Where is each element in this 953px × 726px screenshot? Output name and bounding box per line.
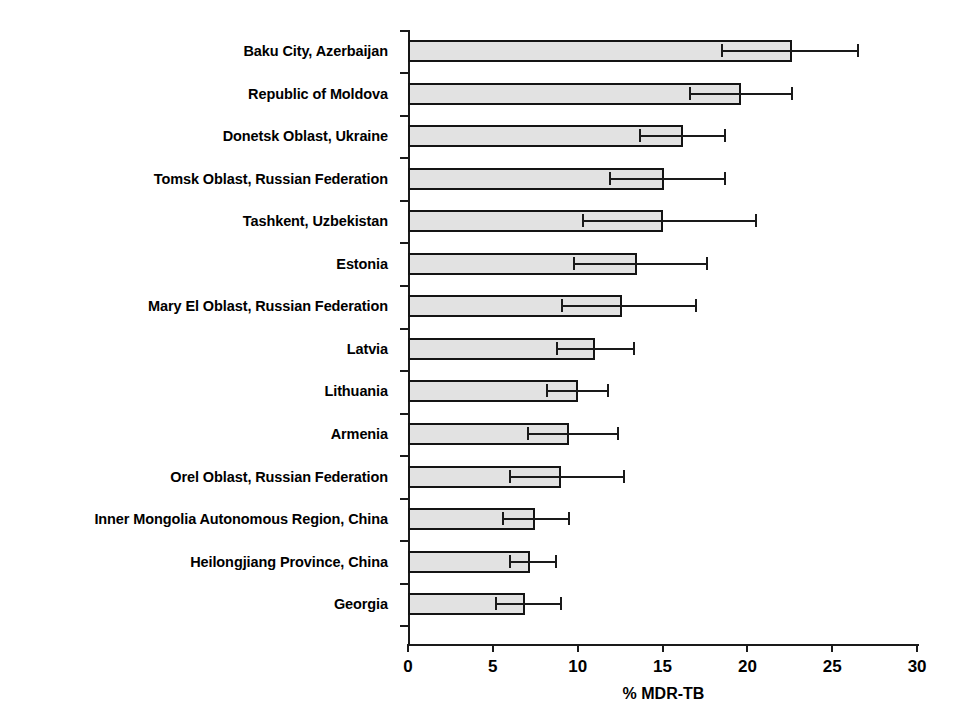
x-axis-tick: [916, 644, 918, 652]
error-bar-line: [640, 135, 725, 137]
x-axis-tick-label: 0: [403, 657, 412, 677]
error-bar-cap-high: [695, 299, 697, 312]
category-label: Heilongjiang Province, China: [0, 554, 388, 570]
error-bar-line: [610, 178, 725, 180]
x-axis-tick: [407, 644, 409, 652]
error-bar-cap-high: [755, 214, 757, 227]
y-axis-tick: [400, 328, 408, 330]
y-axis-tick: [400, 625, 408, 627]
error-bar-cap-low: [561, 299, 563, 312]
error-bar-cap-low: [527, 427, 529, 440]
y-axis-tick: [400, 498, 408, 500]
error-bar-cap-low: [689, 87, 691, 100]
y-axis-tick: [400, 370, 408, 372]
category-label: Tashkent, Uzbekistan: [0, 213, 388, 229]
error-bar-cap-low: [609, 172, 611, 185]
category-label: Inner Mongolia Autonomous Region, China: [0, 511, 388, 527]
error-bar-cap-low: [546, 384, 548, 397]
category-label: Lithuania: [0, 383, 388, 399]
y-axis-tick: [400, 540, 408, 542]
error-bar-cap-low: [721, 44, 723, 57]
error-bar-line: [503, 518, 569, 520]
error-bar-cap-high: [560, 597, 562, 610]
category-label: Armenia: [0, 426, 388, 442]
y-axis-tick: [400, 157, 408, 159]
category-label: Baku City, Azerbaijan: [0, 43, 388, 59]
y-axis-tick: [400, 583, 408, 585]
category-label: Mary El Oblast, Russian Federation: [0, 298, 388, 314]
x-axis-tick-label: 30: [908, 657, 927, 677]
error-bar-line: [574, 263, 706, 265]
category-label: Georgia: [0, 596, 388, 612]
error-bar-cap-low: [509, 555, 511, 568]
error-bar-cap-low: [502, 512, 504, 525]
error-bar-cap-high: [568, 512, 570, 525]
error-bar-cap-high: [724, 129, 726, 142]
category-label: Donetsk Oblast, Ukraine: [0, 128, 388, 144]
y-axis-tick: [400, 455, 408, 457]
error-bar-cap-high: [857, 44, 859, 57]
error-bar-line: [547, 390, 608, 392]
error-bar-cap-low: [639, 129, 641, 142]
error-bar-cap-high: [706, 257, 708, 270]
error-bar-line: [528, 433, 618, 435]
error-bar-cap-high: [555, 555, 557, 568]
error-bar-cap-high: [623, 470, 625, 483]
y-axis-tick: [400, 30, 408, 32]
error-bar-cap-low: [509, 470, 511, 483]
error-bar-line: [583, 220, 756, 222]
error-bar-cap-high: [607, 384, 609, 397]
category-label: Republic of Moldova: [0, 86, 388, 102]
x-axis-tick: [746, 644, 748, 652]
x-axis-tick: [492, 644, 494, 652]
y-axis-tick: [400, 413, 408, 415]
error-bar-cap-low: [495, 597, 497, 610]
x-axis-tick-label: 15: [653, 657, 672, 677]
y-axis-tick: [400, 200, 408, 202]
error-bar-line: [690, 93, 792, 95]
error-bar-cap-low: [573, 257, 575, 270]
y-axis-tick: [400, 285, 408, 287]
category-label: Latvia: [0, 341, 388, 357]
x-axis-tick-label: 25: [823, 657, 842, 677]
error-bar-cap-high: [617, 427, 619, 440]
error-bar-cap-high: [724, 172, 726, 185]
x-axis-tick-label: 5: [488, 657, 497, 677]
error-bar-cap-high: [791, 87, 793, 100]
error-bar-cap-low: [582, 214, 584, 227]
error-bar-line: [562, 305, 696, 307]
error-bar-line: [557, 348, 633, 350]
error-bar-line: [496, 603, 560, 605]
x-axis-title: % MDR-TB: [408, 685, 919, 703]
plot-area: % MDR-TB 051015202530: [408, 0, 953, 726]
category-label: Tomsk Oblast, Russian Federation: [0, 171, 388, 187]
y-axis-tick: [400, 72, 408, 74]
category-label-column: Baku City, AzerbaijanRepublic of Moldova…: [0, 0, 398, 726]
x-axis-tick: [577, 644, 579, 652]
x-axis-tick: [831, 644, 833, 652]
error-bar-line: [722, 50, 858, 52]
error-bar-line: [510, 561, 556, 563]
category-label: Estonia: [0, 256, 388, 272]
mdr-tb-bar-chart: Baku City, AzerbaijanRepublic of Moldova…: [0, 0, 953, 726]
x-axis-tick-label: 20: [738, 657, 757, 677]
x-axis-tick: [662, 644, 664, 652]
category-label: Orel Oblast, Russian Federation: [0, 469, 388, 485]
y-axis-tick: [400, 242, 408, 244]
error-bar-cap-high: [633, 342, 635, 355]
error-bar-line: [510, 476, 624, 478]
error-bar-cap-low: [556, 342, 558, 355]
y-axis-tick: [400, 115, 408, 117]
x-axis-tick-label: 10: [568, 657, 587, 677]
